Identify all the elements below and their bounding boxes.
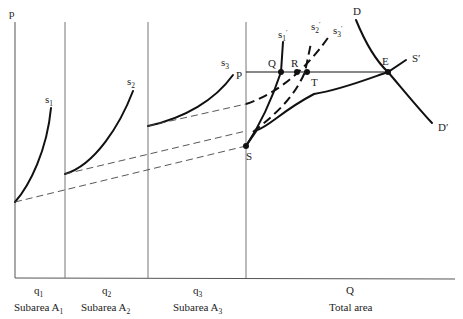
label-point-p: P xyxy=(236,69,242,81)
label-supply-s-prime: S′ xyxy=(412,52,421,64)
point-q-dot xyxy=(278,69,284,75)
label-point-q: Q xyxy=(268,57,276,69)
curve-s1 xyxy=(15,108,51,202)
label-s1: s1 xyxy=(45,93,53,108)
label-s2-prime: s2′ xyxy=(311,20,321,35)
label-s3: s3 xyxy=(221,56,229,71)
label-subarea-a3: Subarea A3 xyxy=(173,301,223,316)
label-q1: q1 xyxy=(34,284,44,299)
label-point-e: E xyxy=(382,55,389,67)
point-s-dot xyxy=(243,143,249,149)
spatial-supply-diagram: p s1 s2 s3 s1′ s2′ s3′ D D′ S′ P Q R T E… xyxy=(0,0,463,319)
curve-s1-prime-solid xyxy=(246,42,283,146)
point-r-dot xyxy=(294,69,300,75)
label-demand-d: D xyxy=(353,5,361,17)
label-s2: s2 xyxy=(127,75,135,90)
label-total-area: Total area xyxy=(329,301,373,313)
label-subarea-a2: Subarea A2 xyxy=(81,301,131,316)
curve-s2 xyxy=(65,91,133,174)
label-q3: q3 xyxy=(193,284,203,299)
x-axis xyxy=(15,278,455,279)
label-subarea-a1: Subarea A1 xyxy=(14,301,64,316)
curve-s3 xyxy=(148,75,233,126)
label-s3-prime: s3′ xyxy=(333,24,343,39)
point-e-dot xyxy=(385,69,391,75)
y-axis-label: p xyxy=(9,7,15,19)
label-point-t: T xyxy=(311,76,318,88)
label-s1-prime: s1′ xyxy=(278,28,288,43)
translation-line-s1 xyxy=(15,146,246,202)
label-demand-d-prime: D′ xyxy=(438,121,448,133)
label-point-s: S xyxy=(246,150,252,162)
label-q2: q2 xyxy=(102,284,112,299)
point-t-dot xyxy=(304,69,310,75)
label-total-q: Q xyxy=(346,284,354,296)
label-point-r: R xyxy=(291,57,299,69)
